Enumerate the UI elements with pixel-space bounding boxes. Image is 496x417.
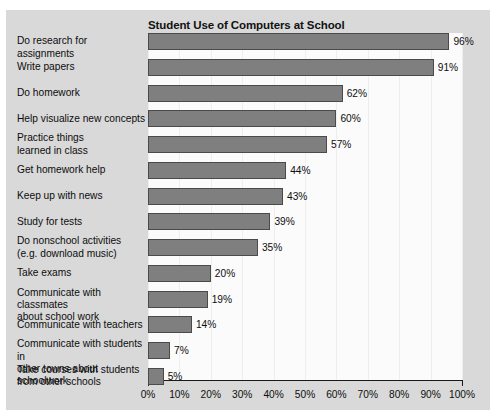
bar	[148, 188, 283, 205]
bar-row: Study for tests39%	[6, 213, 490, 230]
bar	[148, 85, 343, 102]
bar-category-label: Study for tests	[17, 216, 145, 228]
x-axis-tick-label: 30%	[232, 389, 252, 400]
bar	[148, 213, 270, 230]
x-axis-tick-label: 10%	[169, 389, 189, 400]
x-axis-tick-label: 100%	[449, 389, 475, 400]
bar-category-label: Communicate with teachers	[17, 319, 145, 331]
bar-rows: Do research for assignments96%Write pape…	[6, 10, 490, 380]
bar	[148, 110, 336, 127]
bar-row: Practice thingslearned in class57%	[6, 136, 490, 153]
bar-value-label: 14%	[196, 316, 216, 333]
bar-row: Do research for assignments96%	[6, 33, 490, 50]
bar-row: Do homework62%	[6, 85, 490, 102]
bar-category-label: Do nonschool activities(e.g. download mu…	[17, 235, 145, 259]
x-axis-tick-label: 20%	[201, 389, 221, 400]
x-axis-tick-label: 40%	[263, 389, 283, 400]
bar-value-label: 7%	[174, 342, 189, 359]
bar-category-label: Help visualize new concepts	[17, 113, 145, 125]
bar	[148, 342, 170, 359]
bar-row: Communicate with teachers14%	[6, 316, 490, 333]
chart-panel: Student Use of Computers at School Do re…	[6, 10, 490, 410]
x-axis-tick-label: 80%	[389, 389, 409, 400]
x-axis-tick-label: 90%	[420, 389, 440, 400]
x-axis-tick-label: 60%	[326, 389, 346, 400]
bar-value-label: 62%	[347, 85, 367, 102]
bar	[148, 316, 192, 333]
bar-value-label: 44%	[290, 162, 310, 179]
bar-value-label: 91%	[438, 59, 458, 76]
bar-value-label: 20%	[215, 265, 235, 282]
bar	[148, 136, 327, 153]
x-axis-tick-label: 50%	[295, 389, 315, 400]
bar-category-label: Write papers	[17, 61, 145, 73]
bar-value-label: 19%	[212, 291, 232, 308]
bar-category-label: Practice thingslearned in class	[17, 132, 145, 156]
bar-category-label: Do homework	[17, 87, 145, 99]
bar	[148, 59, 434, 76]
bar-value-label: 35%	[262, 239, 282, 256]
bar-row: Take exams20%	[6, 265, 490, 282]
bar-category-label: Take courses with studentsfrom other sch…	[17, 364, 145, 388]
bar-value-label: 5%	[168, 368, 183, 385]
bar	[148, 239, 258, 256]
bar-category-label: Take exams	[17, 267, 145, 279]
bar-category-label: Do research for assignments	[17, 35, 145, 59]
bar	[148, 162, 286, 179]
bar-row: Take courses with studentsfrom other sch…	[6, 368, 490, 385]
bar-row: Do nonschool activities(e.g. download mu…	[6, 239, 490, 256]
bar-row: Communicate with students inother towns …	[6, 342, 490, 359]
bar-value-label: 60%	[340, 110, 360, 127]
bar	[148, 368, 164, 385]
bar-row: Get homework help44%	[6, 162, 490, 179]
bar	[148, 265, 211, 282]
bar-category-label: Keep up with news	[17, 190, 145, 202]
bar-row: Write papers91%	[6, 59, 490, 76]
bar	[148, 291, 208, 308]
bar-row: Keep up with news43%	[6, 188, 490, 205]
bar	[148, 33, 449, 50]
x-axis-tick-labels: 0%10%20%30%40%50%60%70%80%90%100%	[6, 389, 490, 405]
bar-value-label: 96%	[453, 33, 473, 50]
bar-category-label: Get homework help	[17, 164, 145, 176]
bar-row: Help visualize new concepts60%	[6, 110, 490, 127]
bar-row: Communicate with classmatesabout school …	[6, 291, 490, 308]
x-axis-tick-label: 70%	[358, 389, 378, 400]
x-axis-tick-label: 0%	[141, 389, 156, 400]
bar-value-label: 57%	[331, 136, 351, 153]
bar-value-label: 43%	[287, 188, 307, 205]
bar-value-label: 39%	[274, 213, 294, 230]
